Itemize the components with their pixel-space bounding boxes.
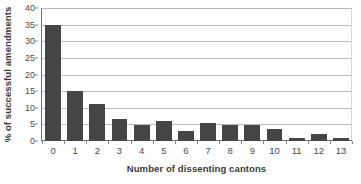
bar xyxy=(311,134,327,141)
x-axis-tick-mark xyxy=(175,141,176,144)
bar-chart-figure: % of successful amendments 0510152025303… xyxy=(0,0,361,184)
x-axis-tick-mark xyxy=(153,141,154,144)
y-axis-tick-label: 30 xyxy=(25,36,35,46)
y-axis-tick-mark xyxy=(35,124,38,125)
x-axis-tick-mark xyxy=(219,141,220,144)
bar-slot xyxy=(131,8,153,141)
x-axis-tick-label: 4 xyxy=(139,145,144,156)
x-axis-tick-mark xyxy=(108,141,109,144)
bar-slot xyxy=(42,8,64,141)
bar xyxy=(222,125,238,141)
x-axis-tick-label: 1 xyxy=(73,145,78,156)
x-axis-tick-label: 7 xyxy=(205,145,210,156)
bar xyxy=(134,125,150,141)
y-axis-tick-label: 40 xyxy=(25,3,35,13)
x-axis-tick-label: 12 xyxy=(313,145,324,156)
y-axis-tick-mark xyxy=(35,24,38,25)
x-axis-tick-label: 0 xyxy=(50,145,55,156)
bar-slot xyxy=(108,8,130,141)
x-axis-tick-label: 13 xyxy=(336,145,347,156)
y-axis-tick-labels: 0510152025303540 xyxy=(16,8,38,141)
x-axis-tick-mark xyxy=(263,141,264,144)
bar xyxy=(45,25,61,141)
y-axis-tick-mark xyxy=(35,8,38,9)
x-axis-tick-mark xyxy=(241,141,242,144)
bar-slot xyxy=(153,8,175,141)
bar-slot xyxy=(286,8,308,141)
bar xyxy=(200,123,216,141)
x-axis-tick-mark xyxy=(42,141,43,144)
y-axis-title-text: % of successful amendments xyxy=(3,6,14,142)
x-axis-title: Number of dissenting cantons xyxy=(41,163,352,174)
bar-slot xyxy=(330,8,352,141)
x-axis-tick-label: 6 xyxy=(183,145,188,156)
x-axis-tick-label: 2 xyxy=(95,145,100,156)
bar xyxy=(267,129,283,141)
x-axis-tick-mark xyxy=(330,141,331,144)
x-axis-tick-label: 5 xyxy=(161,145,166,156)
x-axis-tick-mark xyxy=(352,141,353,144)
y-axis-tick-label: 10 xyxy=(25,103,35,113)
y-axis-tick-mark xyxy=(35,91,38,92)
x-axis-tick-mark xyxy=(86,141,87,144)
x-axis-tick-mark xyxy=(64,141,65,144)
y-axis-title: % of successful amendments xyxy=(0,0,16,148)
bar-slot xyxy=(175,8,197,141)
x-axis-tick-labels: 012345678910111213 xyxy=(42,141,352,161)
bar-slot xyxy=(219,8,241,141)
bar-slot xyxy=(308,8,330,141)
bar xyxy=(156,121,172,141)
bar-slot xyxy=(241,8,263,141)
y-axis-tick-label: 25 xyxy=(25,53,35,63)
y-axis-tick-mark xyxy=(35,74,38,75)
bar-slot xyxy=(86,8,108,141)
bar xyxy=(112,119,128,141)
x-axis-tick-label: 11 xyxy=(292,145,302,156)
x-axis-tick-mark xyxy=(131,141,132,144)
x-axis-tick-label: 8 xyxy=(228,145,233,156)
x-axis-tick-label: 10 xyxy=(269,145,280,156)
y-axis-tick-label: 35 xyxy=(25,20,35,30)
bar xyxy=(67,91,83,141)
y-axis-tick-label: 20 xyxy=(25,70,35,80)
x-axis-tick-label: 3 xyxy=(117,145,122,156)
y-axis-tick-mark xyxy=(35,107,38,108)
bar-series xyxy=(42,8,352,141)
bar xyxy=(178,131,194,141)
y-axis-tick-mark xyxy=(35,141,38,142)
x-axis-tick-label: 9 xyxy=(250,145,255,156)
bar xyxy=(89,104,105,141)
bar xyxy=(244,125,260,141)
x-axis-tick-mark xyxy=(286,141,287,144)
y-axis-tick-mark xyxy=(35,41,38,42)
bar-slot xyxy=(64,8,86,141)
bar-slot xyxy=(197,8,219,141)
y-axis-tick-label: 15 xyxy=(25,86,35,96)
x-axis-tick-mark xyxy=(197,141,198,144)
y-axis-tick-mark xyxy=(35,57,38,58)
bar-slot xyxy=(263,8,285,141)
x-axis-tick-mark xyxy=(308,141,309,144)
